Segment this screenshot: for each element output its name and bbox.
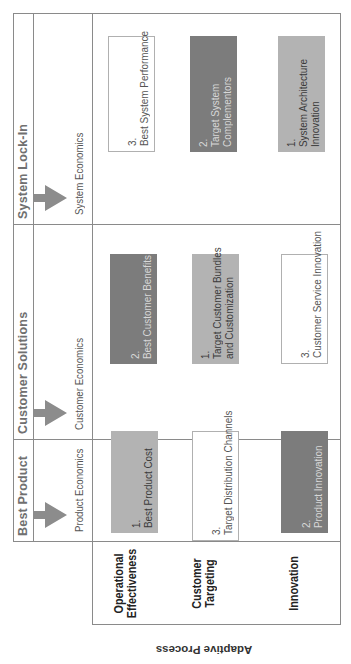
cell-target-distribution-channels: 3. Target Distribution Channels bbox=[192, 431, 239, 541]
cell-number: 2. bbox=[197, 52, 209, 147]
cell-number: 1. bbox=[285, 52, 297, 147]
down-arrow-icon bbox=[33, 400, 67, 426]
down-arrow-icon bbox=[33, 185, 67, 211]
econ-label-system: System Economics bbox=[73, 133, 85, 215]
row-label-line2: Targeting bbox=[204, 559, 217, 607]
column-title-system-lock-in: System Lock-In bbox=[14, 8, 33, 225]
cell-text: Product Innovation bbox=[312, 445, 324, 528]
cell-target-system-complementors: 2. Target System Complementors bbox=[190, 36, 237, 152]
column-title-best-product: Best Product bbox=[14, 434, 33, 542]
econ-cell-customer: Customer Economics bbox=[33, 225, 92, 440]
econ-label-product: Product Economics bbox=[73, 449, 85, 532]
cell-number: 3. bbox=[299, 270, 311, 358]
grid-econ-divider bbox=[92, 14, 93, 625]
cell-system-architecture-innovation: 1. System Architecture Innovation bbox=[278, 36, 325, 152]
cell-number: 3. bbox=[210, 447, 222, 535]
row-label-operational-effectiveness: Operational Effectiveness bbox=[92, 546, 160, 621]
cell-text: Complementors bbox=[221, 52, 233, 147]
cell-best-system-performance: 3. Best System Performance bbox=[108, 36, 155, 152]
econ-cell-system: System Economics bbox=[33, 14, 92, 225]
cell-text: Best Customer Benefits bbox=[141, 269, 153, 359]
econ-cell-product: Product Economics bbox=[33, 440, 92, 542]
cell-best-customer-benefits: 2. Best Customer Benefits bbox=[110, 254, 157, 364]
row-label-customer-targeting: Customer Targeting bbox=[160, 546, 248, 621]
row-label-line1: Innovation bbox=[288, 556, 301, 611]
cell-text: Best System Performance bbox=[138, 52, 150, 146]
grid-bottom bbox=[340, 14, 341, 625]
down-arrow-icon bbox=[33, 502, 67, 528]
cell-text: and Customization bbox=[223, 269, 235, 359]
delta-model-diagram: Adaptive Process Best Product Customer S… bbox=[0, 0, 351, 664]
cell-text: System Architecture bbox=[297, 52, 309, 147]
cell-product-innovation: 2. Product Innovation bbox=[281, 431, 328, 533]
cell-number: 3. bbox=[126, 52, 138, 146]
econ-label-customer: Customer Economics bbox=[73, 338, 85, 430]
cell-text: Innovation bbox=[309, 52, 321, 147]
cell-text: Customer Service Innovation bbox=[311, 270, 323, 358]
row-label-innovation: Innovation bbox=[248, 546, 340, 621]
cell-customer-service-innovation: 3. Customer Service Innovation bbox=[281, 254, 328, 364]
cell-number: 2. bbox=[129, 269, 141, 359]
cell-text: Target Distribution Channels bbox=[222, 447, 234, 535]
cell-number: 2. bbox=[300, 445, 312, 528]
row-label-line2: Effectiveness bbox=[126, 549, 139, 619]
cell-best-product-cost: 1. Best Product Cost bbox=[111, 431, 158, 533]
cell-text: Target System bbox=[209, 52, 221, 147]
column-title-customer-solutions: Customer Solutions bbox=[14, 219, 33, 440]
side-label-adaptive-process: Adaptive Process bbox=[104, 644, 304, 656]
cell-target-customer-bundles: 1. Target Customer Bundles and Customiza… bbox=[192, 254, 239, 364]
cell-number: 1. bbox=[130, 445, 142, 528]
grid-left bbox=[92, 624, 341, 625]
cell-text: Best Product Cost bbox=[142, 445, 154, 528]
cell-number: 1. bbox=[199, 269, 211, 359]
cell-text: Target Customer Bundles bbox=[211, 269, 223, 359]
